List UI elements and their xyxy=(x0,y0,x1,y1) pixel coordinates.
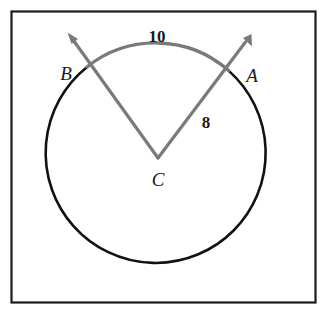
figure-canvas xyxy=(0,0,326,315)
point-label-A: A xyxy=(246,66,258,85)
geometry-figure: B A C 10 8 xyxy=(0,0,326,315)
radius-length-label: 8 xyxy=(202,114,211,131)
figure-border xyxy=(12,12,316,303)
point-label-C: C xyxy=(152,170,165,189)
arc-length-label: 10 xyxy=(149,28,166,45)
point-label-B: B xyxy=(60,64,72,83)
